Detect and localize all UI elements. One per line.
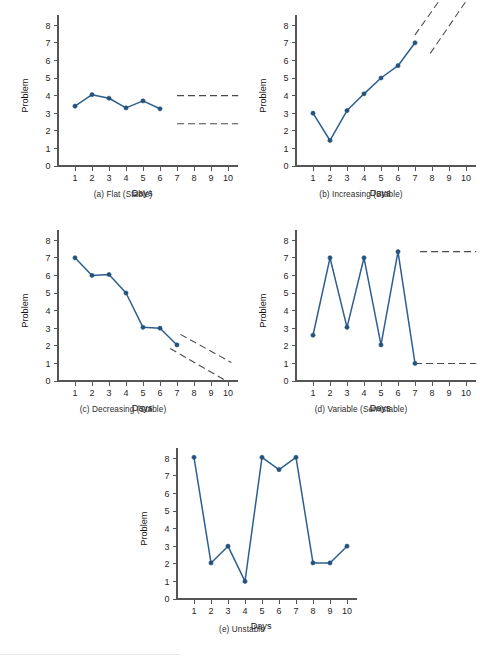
x-axis-tick-label: 2: [327, 173, 332, 183]
data-point-marker: [73, 256, 77, 260]
x-axis-tick-label: 3: [106, 173, 111, 183]
chart-svg-flat-stable: 01234567812345678910DaysProblem: [6, 4, 240, 190]
y-axis-tick-label: 4: [283, 91, 288, 101]
data-point-marker: [362, 256, 366, 260]
data-point-marker: [379, 343, 383, 347]
chart-caption-unstable: (e) Unstable: [125, 625, 359, 634]
y-axis-title: Problem: [20, 78, 30, 113]
y-axis-tick-label: 3: [45, 109, 50, 119]
x-axis-tick-label: 4: [123, 173, 128, 183]
projection-dashed-line: [170, 348, 226, 381]
data-point-marker: [260, 455, 264, 459]
chart-caption-flat-stable: (a) Flat (Stable): [6, 190, 240, 199]
y-axis-tick-label: 0: [164, 594, 169, 604]
y-axis-tick-label: 8: [45, 236, 50, 246]
data-point-marker: [413, 361, 417, 365]
y-axis-tick-label: 0: [283, 376, 288, 386]
y-axis-tick-label: 8: [283, 21, 288, 31]
x-axis-tick-label: 3: [344, 173, 349, 183]
chart-panel-variable-semistable: 01234567812345678910DaysProblem (d) Vari…: [244, 219, 478, 429]
y-axis-tick-label: 5: [164, 506, 169, 516]
y-axis-tick-label: 7: [283, 253, 288, 263]
x-axis-tick-label: 6: [395, 173, 400, 183]
x-axis-tick-label: 10: [461, 388, 471, 398]
data-point-marker: [328, 561, 332, 565]
y-axis-tick-label: 2: [45, 341, 50, 351]
data-point-marker: [124, 106, 128, 110]
y-axis-tick-label: 0: [45, 376, 50, 386]
chart-axes: [58, 230, 238, 381]
projection-dashed-line: [430, 0, 467, 53]
data-point-marker: [294, 455, 298, 459]
data-point-marker: [311, 333, 315, 337]
data-point-marker: [107, 96, 111, 100]
y-axis-tick-label: 1: [45, 144, 50, 154]
x-axis-tick-label: 1: [191, 606, 196, 616]
x-axis-tick-label: 1: [72, 173, 77, 183]
y-axis-tick-label: 2: [283, 341, 288, 351]
chart-caption-decreasing-stable: (c) Decreasing (Stable): [6, 405, 240, 414]
x-axis-tick-label: 5: [140, 388, 145, 398]
chart-axes: [296, 230, 476, 381]
y-axis-tick-label: 8: [45, 21, 50, 31]
y-axis-tick-label: 8: [164, 454, 169, 464]
x-axis-tick-label: 2: [208, 606, 213, 616]
data-point-marker: [379, 76, 383, 80]
x-axis-tick-label: 8: [429, 173, 434, 183]
page-bottom-rule: [0, 654, 180, 655]
x-axis-tick-label: 6: [157, 388, 162, 398]
y-axis-tick-label: 5: [45, 73, 50, 83]
projection-dashed-line: [415, 0, 451, 35]
chart-svg-increasing-stable: 01234567812345678910DaysProblem: [244, 4, 478, 190]
data-point-marker: [90, 93, 94, 97]
data-point-marker: [158, 326, 162, 330]
y-axis-tick-label: 0: [283, 161, 288, 171]
data-point-marker: [362, 92, 366, 96]
y-axis-tick-label: 4: [283, 306, 288, 316]
x-axis-tick-label: 10: [461, 173, 471, 183]
y-axis-tick-label: 6: [45, 271, 50, 281]
y-axis-tick-label: 1: [164, 577, 169, 587]
projection-dashed-line: [180, 334, 231, 362]
chart-axes: [58, 15, 238, 166]
data-point-marker: [277, 468, 281, 472]
x-axis-tick-label: 4: [361, 388, 366, 398]
y-axis-tick-label: 7: [283, 38, 288, 48]
x-axis-tick-label: 9: [446, 173, 451, 183]
y-axis-title: Problem: [258, 78, 268, 113]
x-axis-tick-label: 8: [310, 606, 315, 616]
data-point-marker: [345, 325, 349, 329]
x-axis-tick-label: 5: [259, 606, 264, 616]
data-point-marker: [158, 107, 162, 111]
y-axis-tick-label: 1: [283, 359, 288, 369]
x-axis-tick-label: 6: [395, 388, 400, 398]
x-axis-tick-label: 8: [191, 388, 196, 398]
x-axis-tick-label: 1: [310, 173, 315, 183]
y-axis-tick-label: 5: [45, 288, 50, 298]
y-axis-tick-label: 3: [283, 109, 288, 119]
y-axis-tick-label: 2: [45, 126, 50, 136]
y-axis-tick-label: 3: [45, 324, 50, 334]
x-axis-tick-label: 8: [429, 388, 434, 398]
x-axis-tick-label: 10: [223, 173, 233, 183]
data-point-marker: [73, 104, 77, 108]
y-axis-tick-label: 4: [45, 91, 50, 101]
data-point-marker: [311, 561, 315, 565]
x-axis-tick-label: 3: [106, 388, 111, 398]
data-point-marker: [345, 544, 349, 548]
x-axis-tick-label: 1: [72, 388, 77, 398]
y-axis-tick-label: 4: [164, 524, 169, 534]
y-axis-tick-label: 3: [164, 542, 169, 552]
data-point-marker: [107, 272, 111, 276]
chart-panel-increasing-stable: 01234567812345678910DaysProblem (b) Incr…: [244, 4, 478, 214]
x-axis-tick-label: 6: [157, 173, 162, 183]
chart-axes: [296, 15, 476, 166]
data-point-marker: [243, 579, 247, 583]
data-series-line: [313, 252, 415, 364]
x-axis-tick-label: 5: [378, 173, 383, 183]
x-axis-tick-label: 9: [208, 388, 213, 398]
x-axis-tick-label: 10: [342, 606, 352, 616]
y-axis-tick-label: 3: [283, 324, 288, 334]
x-axis-tick-label: 4: [361, 173, 366, 183]
x-axis-tick-label: 9: [208, 173, 213, 183]
